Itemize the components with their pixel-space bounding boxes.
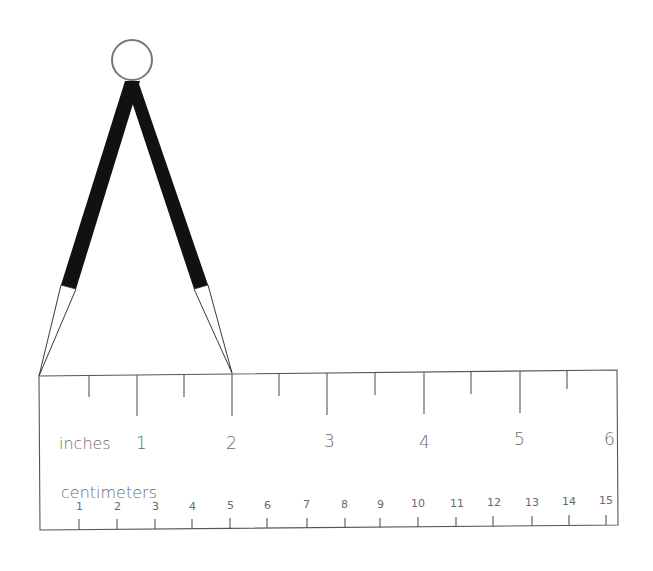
cm-label-3: 3 [152,500,159,513]
cm-label-11: 11 [450,497,464,510]
cm-label-7: 7 [303,498,310,511]
cm-label-1: 1 [76,500,83,513]
compass-right-point [194,285,232,373]
cm-label-13: 13 [525,496,539,509]
compass-ring [112,40,152,80]
compass-right-leg [125,81,208,289]
inches-label: inches [59,434,111,453]
cm-label-6: 6 [264,499,271,512]
cm-label-10: 10 [411,497,425,510]
compass-ruler-diagram: inches 1 2 3 4 5 6 centimeters 1 2 3 4 5… [0,0,653,571]
cm-label-2: 2 [114,500,121,513]
cm-label-15: 15 [599,494,613,507]
inch-label-3: 3 [324,431,335,451]
ruler: inches 1 2 3 4 5 6 centimeters 1 2 3 4 5… [39,370,618,530]
inch-label-6: 6 [604,429,615,449]
compass-left-leg [61,81,140,289]
inch-label-2: 2 [226,433,237,453]
cm-label-8: 8 [341,498,348,511]
cm-label-5: 5 [227,499,234,512]
inch-label-1: 1 [136,433,147,453]
compass [39,40,232,376]
cm-label-4: 4 [189,500,196,513]
inch-ticks [89,371,567,417]
inch-label-4: 4 [419,432,430,452]
cm-label-9: 9 [377,498,384,511]
cm-label-14: 14 [562,495,576,508]
inch-label-5: 5 [514,429,525,449]
cm-label-12: 12 [487,496,501,509]
compass-left-needle [39,285,76,376]
